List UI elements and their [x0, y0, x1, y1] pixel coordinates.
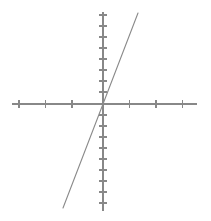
plot-background — [0, 0, 211, 221]
coordinate-plane-svg — [0, 0, 211, 221]
graph-figure — [0, 0, 211, 221]
